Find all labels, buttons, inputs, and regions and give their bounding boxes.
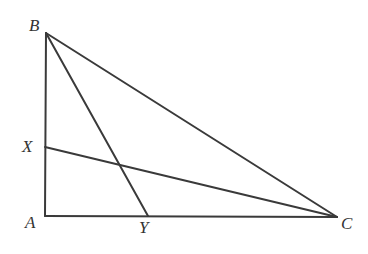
vertex-label-y: Y: [139, 219, 148, 236]
segment-by: [46, 33, 148, 216]
triangle-outline: [45, 33, 337, 217]
vertex-label-x: X: [22, 138, 32, 155]
segment-xc: [45, 147, 337, 217]
segment-ac: [45, 216, 337, 217]
geometry-canvas: [0, 0, 368, 254]
segment-bc: [46, 33, 337, 217]
segment-ab: [45, 33, 46, 216]
vertex-label-c: C: [341, 215, 352, 232]
geometry-figure: B X A Y C: [0, 0, 368, 254]
vertex-label-b: B: [29, 17, 39, 34]
vertex-label-a: A: [25, 214, 35, 231]
